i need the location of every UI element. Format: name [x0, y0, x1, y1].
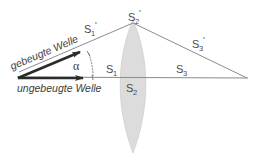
- figure-root: gebeugte Welle ungebeugte Welle α S 1 ' …: [0, 0, 259, 156]
- label-s2-prime-sub: 2: [135, 17, 139, 26]
- label-s3-prime-sub: 3: [199, 44, 203, 53]
- diffraction-lens-diagram: gebeugte Welle ungebeugte Welle α S 1 ' …: [0, 0, 259, 156]
- label-s2-sub: 2: [133, 88, 137, 97]
- label-alpha: α: [73, 59, 80, 73]
- label-s1-sub: 1: [113, 69, 117, 78]
- label-undiffracted-wave: ungebeugte Welle: [17, 82, 102, 94]
- label-s3-prime-mark: ': [203, 35, 205, 45]
- label-s1-prime-sub: 1: [91, 29, 95, 38]
- label-s3-sub: 3: [183, 69, 187, 78]
- label-s2-prime-mark: ': [139, 8, 141, 18]
- label-s1-prime-mark: ': [95, 20, 97, 30]
